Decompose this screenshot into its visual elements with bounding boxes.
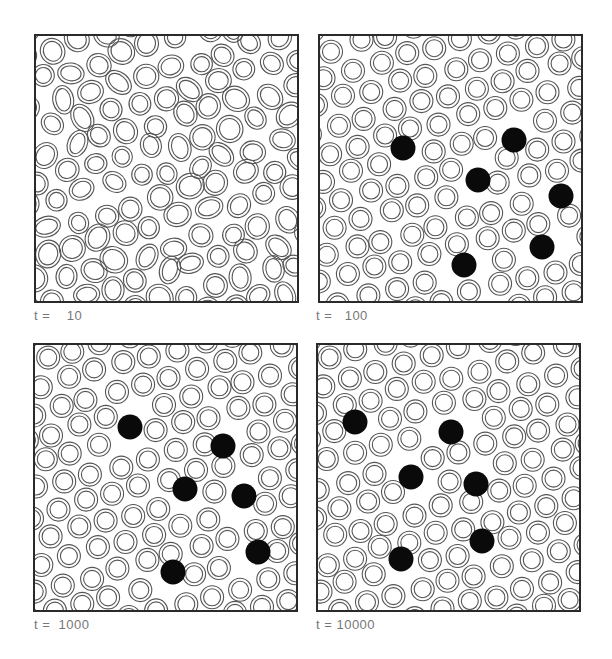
ring-cell [369,433,392,456]
ring-cell [346,135,369,158]
ring-cell [496,42,519,65]
ring-cell [527,521,550,544]
ring-cell [143,524,166,547]
ring-cell [318,507,327,530]
ring-cell [480,302,503,303]
ring-cell [318,554,339,577]
ring-cell [438,470,461,493]
ring-cell [296,345,298,354]
ring-cell [36,260,52,296]
black-particle [246,540,271,565]
ring-cell [526,138,549,161]
ring-cell [35,345,39,348]
ring-cell [75,488,98,511]
ring-cell [249,178,279,208]
ring-cell [440,158,463,181]
ring-cell [36,294,43,303]
ring-cell [133,64,159,89]
ring-cell [430,291,453,303]
ring-cell [289,357,298,380]
ring-cell [570,456,581,479]
ring-cell [190,535,213,558]
ring-cell [37,346,60,369]
ring-cell [77,255,111,287]
ring-cell [403,504,426,527]
ring-cell [498,526,521,549]
ring-cell [349,520,372,543]
ring-cell [511,577,534,600]
ring-cell [204,67,233,94]
ring-cell [480,202,503,225]
ring-cell [223,189,256,222]
ring-cell [440,367,463,390]
ring-cell [145,599,168,612]
ring-cell [283,73,299,98]
ring-cell [336,263,359,286]
ring-cell [35,376,52,399]
ring-cell [490,555,513,578]
ring-cell [296,166,299,202]
ring-cell [320,143,342,166]
ring-cell [295,122,299,153]
ring-cell [318,580,332,603]
ring-cell [552,36,575,51]
ring-cell [410,90,433,113]
ring-cell [404,297,427,303]
ring-cell [342,59,365,82]
ring-cell [318,402,327,425]
ring-cell [320,270,330,293]
ring-cell [164,438,187,461]
ring-cell [216,527,239,550]
ring-cell [580,125,583,148]
ring-cell [57,545,80,568]
ring-cell [320,36,324,42]
ring-cell [35,429,38,452]
ring-cell [364,361,387,384]
ring-cell [45,189,68,212]
ring-cell [71,592,94,612]
ring-cell [527,419,550,442]
ring-cell [436,569,459,592]
ring-cell [254,492,277,515]
ring-cell [352,107,375,130]
ring-cell [445,58,468,81]
ring-cell [435,186,458,209]
ring-cell [330,189,353,212]
ring-cell [504,36,527,39]
black-particle [173,477,198,502]
ring-cell [418,549,441,572]
ring-cell [186,357,209,380]
ring-cell [340,159,363,182]
ring-cell [137,345,160,368]
ring-cell [68,515,91,538]
ring-cell [455,206,478,229]
ring-cell [109,143,136,170]
ring-cell [431,597,454,612]
ring-cell [78,463,101,486]
ring-cell [396,42,419,65]
ring-cell [468,360,491,383]
ring-cell [556,413,579,436]
ring-cell [357,490,380,513]
ring-cell [83,358,106,381]
ring-cell [58,365,81,388]
ring-cell [363,462,386,485]
ring-cell [169,514,192,537]
ring-cell [36,61,58,89]
ring-cell [533,594,556,612]
ring-cell [39,525,62,548]
ring-cell [40,424,63,447]
ring-cell [516,59,539,82]
ring-cell [109,114,143,148]
ring-cell [357,284,380,303]
ring-cell [101,482,124,505]
black-particle [211,434,236,459]
ring-cell [553,345,576,357]
ring-cell [201,586,224,609]
ring-cell [414,64,437,87]
black-particle [389,547,414,572]
ring-cell [83,120,115,152]
ring-cell [227,396,250,419]
ring-cell [35,448,57,471]
ring-cell [320,243,338,266]
